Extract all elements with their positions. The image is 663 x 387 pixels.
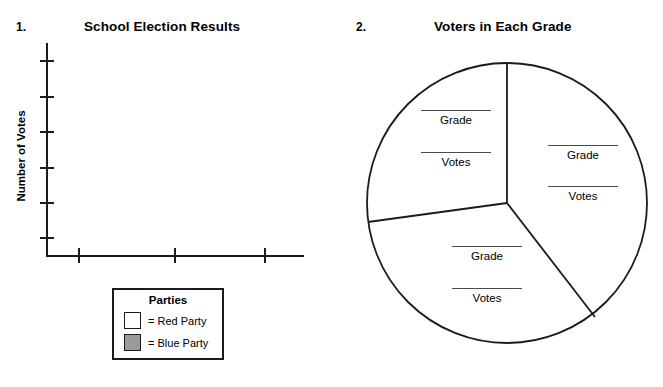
legend-swatch-red-party-icon [124, 312, 141, 329]
worksheet-page: 1. School Election Results Number of Vot… [0, 0, 663, 387]
legend-title: Parties [114, 294, 222, 306]
pie-sector-1-votes-label: Votes [421, 155, 491, 169]
write-in-line[interactable] [421, 110, 491, 111]
pie-sector-3-grade-label: Grade [452, 249, 522, 263]
x-axis-tick [174, 248, 176, 263]
pie-sector-1-grade-label: Grade [421, 113, 491, 127]
write-in-line[interactable] [452, 288, 522, 289]
write-in-line[interactable] [452, 246, 522, 247]
y-axis-tick [40, 167, 54, 169]
bar-chart-y-axis [46, 43, 48, 257]
x-axis-tick [78, 248, 80, 263]
pie-sector-2-votes-field[interactable]: Votes [548, 186, 618, 203]
legend-label-blue-party: = Blue Party [148, 337, 208, 349]
pie-sector-2-grade-label: Grade [548, 148, 618, 162]
legend-row-blue-party: = Blue Party [124, 334, 208, 351]
pie-sector-1-votes-field[interactable]: Votes [421, 152, 491, 169]
pie-sector-2-votes-label: Votes [548, 189, 618, 203]
bar-chart-title: School Election Results [84, 19, 240, 34]
write-in-line[interactable] [548, 186, 618, 187]
pie-sector-2-grade-field[interactable]: Grade [548, 145, 618, 162]
pie-sector-3-grade-field[interactable]: Grade [452, 246, 522, 263]
y-axis-tick [40, 237, 54, 239]
problem-1-bar-chart: 1. School Election Results Number of Vot… [0, 0, 330, 387]
write-in-line[interactable] [421, 152, 491, 153]
x-axis-tick [264, 248, 266, 263]
y-axis-tick [40, 202, 54, 204]
pie-sector-3-votes-field[interactable]: Votes [452, 288, 522, 305]
pie-sector-3-votes-label: Votes [452, 291, 522, 305]
legend-row-red-party: = Red Party [124, 312, 206, 329]
pie-chart-title: Voters in Each Grade [434, 19, 572, 34]
write-in-line[interactable] [548, 145, 618, 146]
bar-chart-legend: Parties = Red Party = Blue Party [112, 288, 224, 360]
y-axis-tick [40, 131, 54, 133]
y-axis-tick [40, 96, 54, 98]
problem-2-number: 2. [356, 20, 366, 34]
bar-chart-y-axis-label: Number of Votes [15, 91, 27, 221]
legend-swatch-blue-party-icon [124, 334, 141, 351]
y-axis-tick [40, 60, 54, 62]
legend-label-red-party: = Red Party [148, 315, 206, 327]
problem-1-number: 1. [16, 20, 26, 34]
pie-sector-1-grade-field[interactable]: Grade [421, 110, 491, 127]
